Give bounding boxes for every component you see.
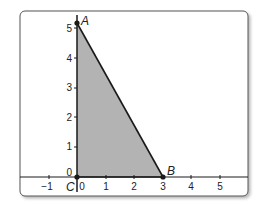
point-a: [74, 20, 79, 25]
label-b: B: [167, 164, 175, 178]
y-tick-0: 0: [66, 167, 72, 178]
x-tick-1: 1: [103, 181, 109, 192]
y-tick-3: 3: [66, 82, 72, 93]
point-c: [74, 174, 79, 179]
x-tick-2: 2: [131, 181, 137, 192]
y-tick-4: 4: [66, 53, 72, 64]
x-tick-4: 4: [188, 181, 194, 192]
x-tick-5: 5: [217, 181, 223, 192]
coordinate-plane: −1 0 1 2 3 4 5 0 1 2 3 4 5 A B C: [0, 0, 259, 204]
x-tick-3: 3: [160, 181, 166, 192]
y-tick-2: 2: [66, 112, 72, 123]
point-b: [160, 174, 165, 179]
x-tick--1: −1: [41, 181, 53, 192]
label-c: C: [66, 180, 75, 194]
y-tick-1: 1: [66, 141, 72, 152]
x-tick-0: 0: [79, 181, 85, 192]
label-a: A: [80, 14, 89, 28]
y-tick-5: 5: [66, 23, 72, 34]
